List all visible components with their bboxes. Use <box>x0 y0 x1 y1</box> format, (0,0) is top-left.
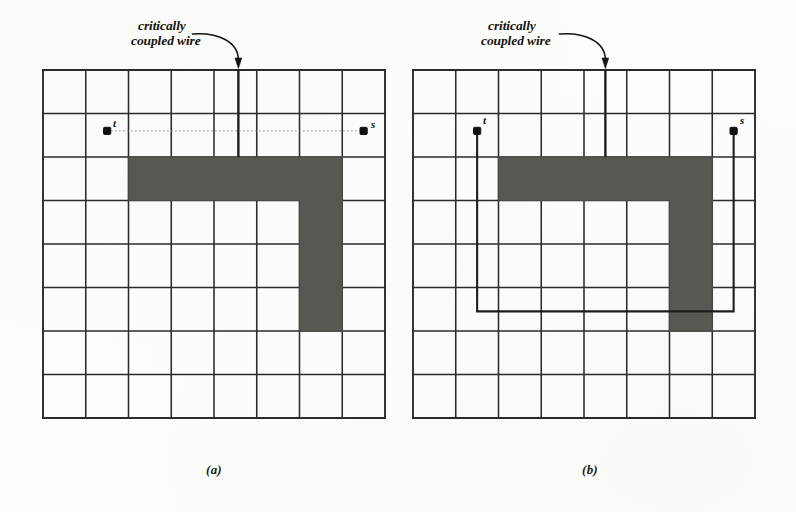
terminal-label-t: t <box>483 114 486 126</box>
panel-caption-a: (a) <box>174 462 254 478</box>
terminal-node-s <box>730 127 737 134</box>
annotation-line-1: critically <box>488 18 536 33</box>
terminal-node-s <box>360 127 367 134</box>
terminal-label-s: s <box>740 114 744 126</box>
terminal-node-t <box>104 127 111 134</box>
terminal-label-t: t <box>113 117 116 129</box>
panel-a: critically coupled wire t s (a) <box>0 0 400 512</box>
annotation-line-2: coupled wire <box>481 33 551 48</box>
panel-a-drawing <box>0 0 400 460</box>
panel-caption-b: (b) <box>550 462 630 478</box>
annotation-arrow-head <box>235 58 242 69</box>
panel-b-drawing <box>370 0 796 460</box>
panel-b: critically coupled wire t s (b) <box>370 0 796 512</box>
annotation-arrow-icon <box>559 34 608 69</box>
annotation-arrow-head <box>602 58 609 69</box>
annotation-arrow-curve <box>559 34 605 60</box>
annotation-line-2: coupled wire <box>131 33 201 48</box>
terminal-node-t <box>474 127 481 134</box>
figure-canvas: critically coupled wire t s (a) critical… <box>0 0 796 512</box>
annotation-line-1: critically <box>138 18 186 33</box>
